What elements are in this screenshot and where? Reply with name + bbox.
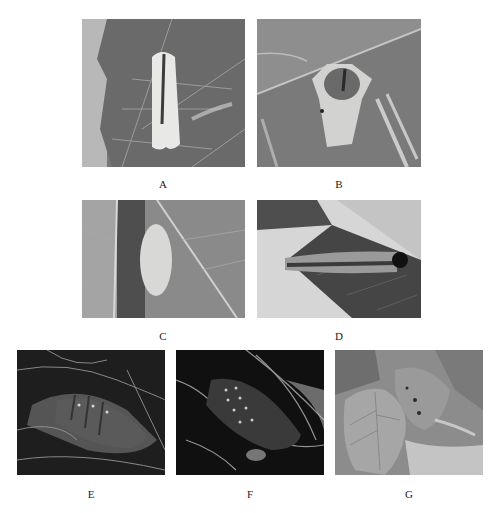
panel-f-label: F: [230, 488, 270, 500]
panel-c-label: C: [143, 330, 183, 342]
panel-b-label: B: [319, 178, 359, 190]
moth-on-leaf-image-b: [257, 19, 421, 167]
panel-d-image: [257, 200, 421, 318]
panel-e-image: [17, 350, 165, 475]
pupa-cocoon-image-f: [176, 350, 324, 475]
pupa-cocoon-image-e: [17, 350, 165, 475]
moth-on-leaf-image-a: [82, 19, 245, 167]
panel-c-image: [82, 200, 245, 318]
panel-a-label: A: [143, 178, 183, 190]
panel-d-label: D: [319, 330, 359, 342]
panel-g-label: G: [389, 488, 429, 500]
damaged-leaves-image-g: [335, 350, 483, 475]
larva-image-d: [257, 200, 421, 318]
panel-a-image: [82, 19, 245, 167]
panel-b-image: [257, 19, 421, 167]
panel-e-label: E: [71, 488, 111, 500]
panel-f-image: [176, 350, 324, 475]
panel-g-image: [335, 350, 483, 475]
egg-mass-image-c: [82, 200, 245, 318]
